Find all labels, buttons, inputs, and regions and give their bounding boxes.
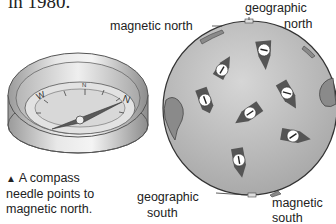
compass-caption: ▲ A compass needle points to magnetic no…: [6, 171, 94, 218]
label-geographic-south-line2: south: [147, 206, 178, 220]
geographic-south-marker: [248, 193, 256, 197]
label-geographic-south-line1: geographic: [137, 190, 199, 204]
label-magnetic-south-line2: south: [272, 211, 303, 224]
caption-line-2: needle points to: [6, 187, 94, 203]
globe: [163, 17, 336, 197]
label-geographic-north-line2: north: [284, 17, 313, 31]
label-geographic-north-line1: geographic: [245, 1, 307, 15]
label-magnetic-south-line1: magnetic: [272, 196, 323, 210]
label-magnetic-north: magnetic north: [110, 19, 193, 33]
caption-line-3: magnetic north.: [6, 202, 94, 218]
dial-letter-n-small: N: [82, 82, 86, 88]
caption-line-1: A compass: [19, 171, 80, 185]
triangle-marker-icon: ▲: [6, 173, 16, 184]
compass: W N N: [8, 53, 148, 153]
